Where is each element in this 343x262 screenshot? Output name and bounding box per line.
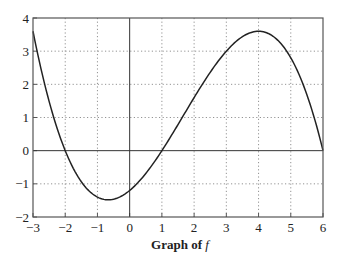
y-tick-label: 1	[23, 110, 30, 125]
x-tick-label: −2	[58, 220, 72, 235]
chart-title-variable: f	[205, 237, 211, 252]
x-tick-label: 1	[159, 220, 166, 235]
grid-lines	[33, 18, 323, 217]
y-tick-label: 3	[23, 44, 30, 59]
x-tick-label: −1	[91, 220, 105, 235]
x-tick-labels: −3−2−10123456	[26, 220, 327, 235]
x-tick-label: 6	[320, 220, 327, 235]
chart-title: Graph of f	[151, 237, 211, 252]
y-tick-label: 0	[23, 143, 30, 158]
y-tick-label: 4	[23, 11, 30, 26]
x-tick-label: 2	[191, 220, 198, 235]
x-tick-label: 4	[255, 220, 262, 235]
chart-title-prefix: Graph of	[151, 237, 205, 252]
x-tick-label: 0	[126, 220, 133, 235]
y-tick-label: −2	[15, 210, 29, 225]
y-tick-labels: −2−101234	[15, 11, 29, 225]
x-tick-label: 5	[288, 220, 295, 235]
x-tick-label: 3	[223, 220, 230, 235]
y-tick-label: 2	[23, 77, 30, 92]
y-tick-label: −1	[15, 176, 29, 191]
chart-canvas: −3−2−10123456 −2−101234 Graph of f	[0, 0, 343, 262]
function-curve	[33, 31, 323, 200]
